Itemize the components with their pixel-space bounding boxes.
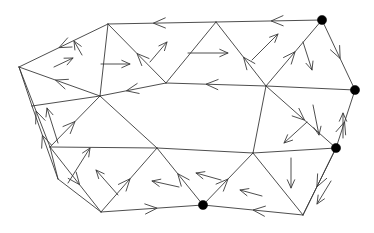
mesh-edge (19, 67, 50, 147)
interior-arrow-shaft (47, 108, 58, 143)
edge-layer (19, 20, 355, 215)
mesh-edge (19, 67, 32, 106)
mesh-edge (101, 148, 157, 212)
mesh-edge (216, 20, 322, 22)
mesh-edge (322, 20, 355, 90)
interior-arrow (313, 105, 321, 135)
mesh-edge (100, 83, 166, 96)
mesh-canvas (0, 0, 374, 233)
interior-arrow (101, 60, 130, 67)
interior-arrow (152, 179, 179, 187)
interior-arrow-shaft (68, 148, 90, 183)
interior-arrow (96, 170, 118, 195)
interior-arrow (54, 58, 73, 67)
interior-arrow-shaft (150, 42, 167, 62)
interior-arrow (68, 148, 90, 183)
marked-vertex (331, 143, 340, 152)
interior-arrow-shaft (96, 170, 118, 195)
interior-arrow-shaft (252, 34, 278, 60)
interior-arrow (74, 41, 82, 55)
interior-arrow (303, 42, 313, 70)
marked-vertex (350, 85, 359, 94)
mesh-edge (253, 148, 336, 153)
interior-arrow-shaft (303, 42, 312, 70)
mesh-edge (50, 147, 157, 148)
edge-direction-arrow (317, 174, 327, 187)
mesh-edge (32, 96, 100, 106)
mesh-edge (266, 86, 355, 90)
interior-arrow (240, 189, 262, 196)
interior-arrow (46, 108, 58, 143)
interior-arrow (196, 172, 221, 180)
mesh-edge (50, 147, 101, 212)
mesh-diagram-figure (0, 0, 374, 233)
mesh-edge (166, 22, 216, 83)
marked-vertex (317, 15, 326, 24)
mesh-edge (100, 96, 157, 148)
mesh-edge (108, 22, 216, 24)
mesh-edge (19, 67, 100, 96)
interior-arrow (287, 158, 294, 188)
marked-vertex (198, 200, 207, 209)
mesh-edge (266, 20, 322, 86)
mesh-edge (157, 148, 253, 153)
interior-arrow-shaft (284, 122, 307, 143)
mesh-edge (166, 83, 266, 86)
interior-arrow (252, 34, 278, 60)
interior-arrow (188, 49, 228, 56)
interior-arrow-shaft (54, 58, 73, 67)
interior-arrow-shaft (74, 41, 82, 55)
vertex-layer (198, 15, 359, 209)
mesh-edge (19, 24, 108, 67)
mesh-edge (100, 24, 108, 96)
interior-arrow (150, 42, 167, 62)
mesh-edge (253, 86, 266, 153)
mesh-edge (157, 148, 203, 205)
mesh-edge (253, 153, 303, 215)
interior-arrow (284, 122, 307, 143)
interior-arrow-head (74, 41, 81, 50)
mesh-edge (266, 86, 336, 148)
